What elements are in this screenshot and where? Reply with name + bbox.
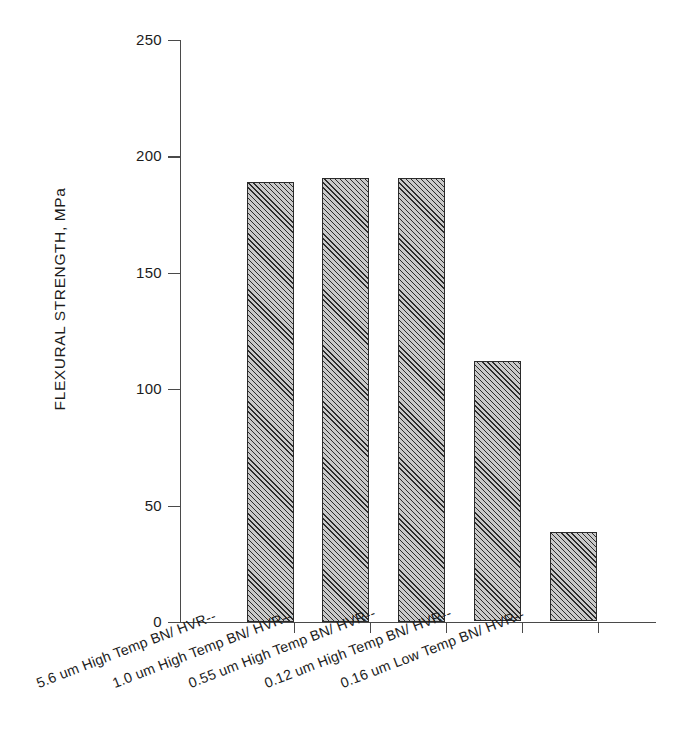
bar-2 <box>398 178 445 622</box>
bar-0 <box>247 182 294 622</box>
x-tick-mark-1 <box>294 622 295 633</box>
y-tick-mark-100 <box>168 389 180 390</box>
y-tick-mark-50 <box>168 506 180 507</box>
y-tick-label-250: 250 <box>118 31 162 48</box>
bar-3 <box>474 361 521 622</box>
y-tick-mark-250 <box>168 40 180 41</box>
y-tick-label-200: 200 <box>118 147 162 164</box>
x-tick-mark-5 <box>598 622 599 633</box>
bar-1 <box>322 178 369 622</box>
y-axis-title: FLEXURAL STRENGTH, MPa <box>51 149 69 449</box>
y-tick-label-150: 150 <box>118 264 162 281</box>
x-tick-mark-3 <box>446 622 447 633</box>
y-axis-line <box>180 40 181 622</box>
flexural-strength-bar-chart: FLEXURAL STRENGTH, MPa 250 200 150 100 5… <box>0 0 690 741</box>
y-tick-label-100: 100 <box>118 380 162 397</box>
x-tick-mark-2 <box>370 622 371 633</box>
y-tick-mark-200 <box>168 156 180 157</box>
y-tick-label-0: 0 <box>118 613 162 630</box>
x-tick-mark-4 <box>522 622 523 633</box>
bar-4 <box>550 532 597 621</box>
y-tick-mark-150 <box>168 273 180 274</box>
y-tick-label-50: 50 <box>118 497 162 514</box>
